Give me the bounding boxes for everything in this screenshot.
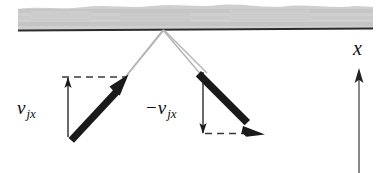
incoming-velocity-vector — [69, 75, 129, 143]
label-base-right: v — [158, 97, 166, 118]
label-velocity-component-right: −vjx — [146, 98, 176, 117]
label-subscript-right: jx — [167, 106, 176, 121]
diagram-canvas — [0, 0, 390, 173]
label-subscript-left: jx — [26, 106, 35, 121]
x-axis-arrow — [355, 68, 364, 173]
wall-band — [18, 5, 374, 30]
label-sign-right: − — [146, 97, 157, 118]
trajectory-path — [123, 30, 207, 80]
label-base-left: v — [17, 97, 25, 118]
outgoing-velocity-vector — [196, 71, 265, 137]
label-velocity-component-left: vjx — [16, 98, 35, 117]
label-x-axis: x — [353, 38, 362, 58]
component-measure-left — [64, 77, 71, 137]
physics-diagram: vjx −vjx x — [0, 0, 390, 173]
